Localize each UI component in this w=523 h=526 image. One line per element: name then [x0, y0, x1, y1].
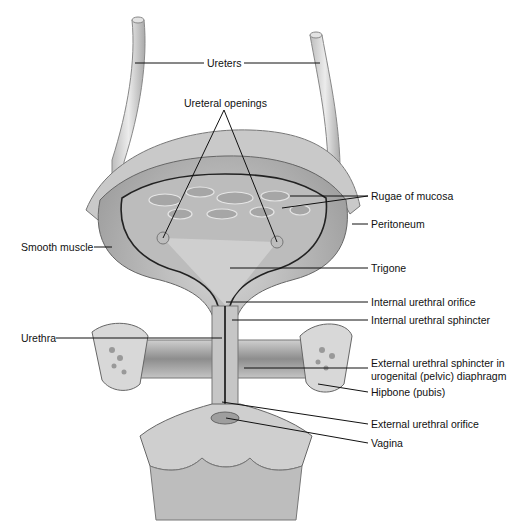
bladder-illustration [0, 0, 523, 526]
label-external-urethral-sphincter-line1: External urethral sphincter in [371, 357, 505, 369]
label-hipbone: Hipbone (pubis) [371, 386, 445, 398]
vaginal-opening-drawing [211, 412, 239, 424]
label-vagina: Vagina [371, 437, 403, 449]
label-trigone: Trigone [371, 262, 406, 274]
right-pubis-drawing [300, 324, 352, 392]
label-peritoneum: Peritoneum [371, 218, 425, 230]
label-rugae-of-mucosa: Rugae of mucosa [371, 190, 453, 202]
label-internal-urethral-orifice: Internal urethral orifice [371, 296, 475, 308]
label-ureters: Ureters [207, 57, 241, 69]
label-external-urethral-sphincter-line2: urogenital (pelvic) diaphragm [371, 370, 506, 382]
label-urethra: Urethra [21, 332, 56, 344]
label-internal-urethral-sphincter: Internal urethral sphincter [371, 314, 490, 326]
label-external-urethral-orifice: External urethral orifice [371, 418, 479, 430]
label-smooth-muscle: Smooth muscle [21, 241, 93, 253]
label-ureteral-openings: Ureteral openings [184, 97, 267, 109]
